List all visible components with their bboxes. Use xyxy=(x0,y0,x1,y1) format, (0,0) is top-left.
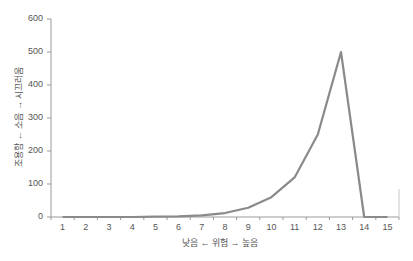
x-tick-label: 1 xyxy=(53,222,73,232)
x-axis-label: 낮음 ← 위험 → 높음 xyxy=(150,236,290,249)
x-tick-label: 5 xyxy=(145,222,165,232)
y-tick-label: 600 xyxy=(13,13,43,23)
x-tick-label: 13 xyxy=(331,222,351,232)
x-tick-label: 9 xyxy=(238,222,258,232)
x-tick-label: 12 xyxy=(308,222,328,232)
y-tick-label: 0 xyxy=(13,211,43,221)
x-tick-label: 4 xyxy=(122,222,142,232)
y-axis-label: 조용함 ← 소음 → 시끄러움 xyxy=(12,47,25,187)
line-chart: 0100200300400500600 12345678910111213141… xyxy=(0,0,413,261)
x-tick-label: 11 xyxy=(285,222,305,232)
x-tick-label: 6 xyxy=(169,222,189,232)
x-tick-label: 8 xyxy=(215,222,235,232)
x-tick-label: 15 xyxy=(377,222,397,232)
x-tick-label: 2 xyxy=(76,222,96,232)
x-tick-label: 7 xyxy=(192,222,212,232)
x-tick-label: 3 xyxy=(99,222,119,232)
x-tick-label: 14 xyxy=(354,222,374,232)
x-tick-label: 10 xyxy=(261,222,281,232)
series-line xyxy=(63,52,388,217)
